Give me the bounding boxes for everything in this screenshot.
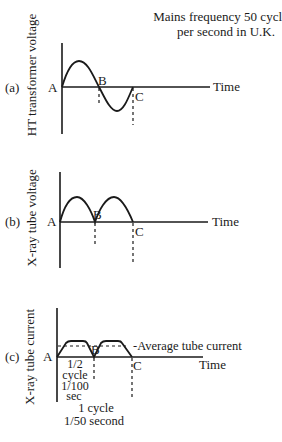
panel-c-point-a: A xyxy=(43,349,53,364)
panel-a-tag: (a) xyxy=(5,80,19,95)
panel-c-average-label: -Average tube current xyxy=(133,339,242,353)
panel-c: X-ray tube current (c) A B C -Average tu… xyxy=(5,308,242,428)
panel-a-point-b: B xyxy=(98,73,107,88)
panel-c-ylabel: X-ray tube current xyxy=(22,309,37,405)
panel-a-point-c: C xyxy=(135,89,144,104)
panel-a-point-a: A xyxy=(48,80,58,95)
frequency-note-line2: per second in U.K. xyxy=(177,24,275,39)
panel-a-time-label: Time xyxy=(213,79,240,94)
panel-b-ylabel: X-ray tube voltage xyxy=(24,169,39,267)
full-cycle-label-2: 1/50 second xyxy=(64,414,125,428)
panel-c-tag: (c) xyxy=(5,349,19,364)
panel-b-point-c: C xyxy=(135,224,144,239)
panel-b-point-b: B xyxy=(93,207,102,222)
frequency-note-line1: Mains frequency 50 cycles xyxy=(153,9,282,24)
panel-b-tag: (b) xyxy=(5,214,20,229)
panel-c-point-c: C xyxy=(133,358,142,373)
panel-b: X-ray tube voltage (b) A B C Time xyxy=(5,169,239,268)
rectification-diagram: Mains frequency 50 cycles per second in … xyxy=(0,0,282,442)
full-cycle-label-1: 1 cycle xyxy=(78,401,114,415)
panel-c-time-label: Time xyxy=(199,357,226,372)
panel-c-point-b: B xyxy=(91,342,100,357)
panel-b-point-a: A xyxy=(47,214,57,229)
panel-a-ylabel: HT transformer voltage xyxy=(24,14,39,137)
panel-b-time-label: Time xyxy=(212,214,239,229)
